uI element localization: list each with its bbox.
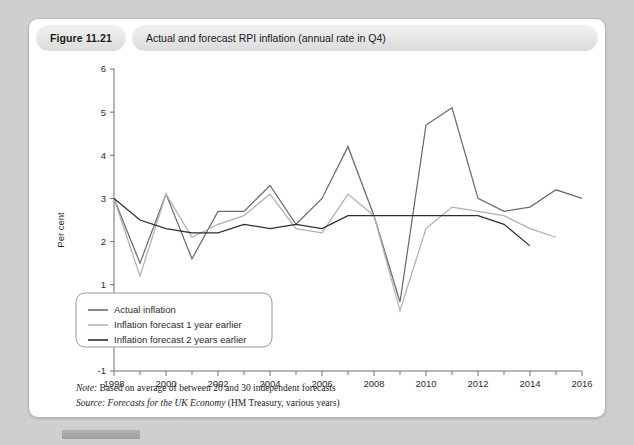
screenshot-page: Figure 11.21 Actual and forecast RPI inf… (0, 0, 634, 445)
x-tick-label: 2008 (363, 378, 384, 389)
source-line: Source: Forecasts for the UK Economy (HM… (76, 398, 340, 409)
figure-header: Figure 11.21 Actual and forecast RPI inf… (36, 25, 598, 51)
series-line-2 (114, 198, 530, 245)
source-publisher: (HM Treasury, various years) (225, 398, 339, 409)
y-tick-label: 1 (101, 279, 106, 290)
x-tick-label: 2012 (467, 378, 488, 389)
y-tick-label: -1 (98, 365, 106, 376)
note-label: Note: (75, 383, 97, 393)
y-tick-label: 4 (101, 150, 106, 161)
figure-notes: Note: Based on average of between 20 and… (75, 383, 340, 409)
rpi-inflation-line-chart: -10123456 199820002002200420062008201020… (36, 55, 600, 411)
note-body: Based on average of between 20 and 30 in… (97, 383, 336, 393)
chart-legend: Actual inflationInflation forecast 1 yea… (76, 293, 272, 347)
data-series-group (114, 108, 582, 311)
legend-label-0: Actual inflation (114, 304, 176, 315)
legend-label-2: Inflation forecast 2 years earlier (114, 334, 247, 345)
y-tick-label: 2 (101, 236, 106, 247)
y-tick-label: 3 (101, 193, 106, 204)
figure-card: Figure 11.21 Actual and forecast RPI inf… (28, 18, 606, 418)
note-line: Note: Based on average of between 20 and… (75, 383, 336, 393)
source-label: Source: (76, 398, 105, 408)
source-title: Forecasts for the UK Economy (105, 398, 226, 408)
series-line-0 (114, 108, 582, 302)
y-axis-title: Per cent (55, 212, 66, 248)
page-footer-bar (62, 430, 140, 439)
x-tick-label: 2016 (571, 378, 592, 389)
y-tick-label: 6 (101, 63, 106, 74)
figure-number: Figure 11.21 (36, 25, 126, 51)
figure-caption: Actual and forecast RPI inflation (annua… (132, 25, 598, 51)
legend-label-1: Inflation forecast 1 year earlier (114, 319, 242, 330)
y-tick-label: 5 (101, 107, 106, 118)
x-tick-label: 2010 (415, 378, 436, 389)
x-tick-label: 2014 (519, 378, 540, 389)
chart-area: -10123456 199820002002200420062008201020… (36, 55, 598, 411)
